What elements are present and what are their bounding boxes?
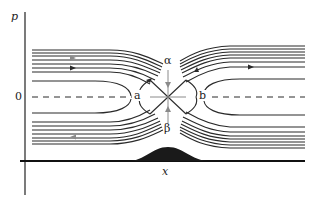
point-b-label: b bbox=[199, 90, 206, 101]
phase-portrait bbox=[0, 0, 321, 203]
x-axis-label: x bbox=[162, 166, 168, 177]
separatrix-right bbox=[186, 80, 197, 114]
upper-left-streamlines bbox=[32, 50, 163, 84]
y-axis-label: p bbox=[11, 11, 18, 22]
orbit-b bbox=[204, 79, 305, 93]
alpha-label: α bbox=[164, 55, 171, 66]
orbit-b-lower bbox=[204, 101, 305, 115]
upper-right-streamlines bbox=[180, 46, 305, 82]
origin-label: 0 bbox=[15, 91, 22, 102]
orbit-a bbox=[32, 81, 131, 96]
beta-label: β bbox=[164, 123, 170, 134]
orbit-a-lower bbox=[32, 99, 131, 113]
lower-right-streamlines bbox=[180, 112, 305, 148]
bump-obstacle bbox=[128, 147, 210, 161]
point-a-label: a bbox=[134, 90, 141, 101]
lower-left-streamlines bbox=[32, 110, 163, 144]
